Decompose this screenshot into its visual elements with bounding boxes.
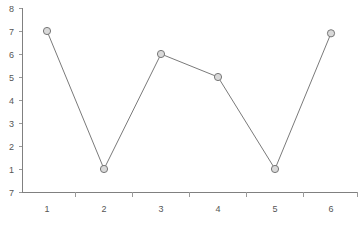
y-axis-group: 8 7 6 5 4 3 2 1 7 [9,4,23,198]
x-axis-tick-label: 4 [215,204,220,214]
x-axis-tick-label: 2 [101,204,106,214]
data-series-group [43,27,334,172]
y-axis-tick-label: 4 [9,96,14,106]
y-axis-tick-label: 7 [9,27,14,37]
data-point-marker [157,50,164,57]
data-point-marker [271,165,278,172]
y-axis-tick-label: 7 [9,188,14,198]
x-axis-tick-label: 6 [328,204,333,214]
y-tick-marks [19,9,22,193]
data-point-marker [100,165,107,172]
x-axis-tick-label: 5 [272,204,277,214]
series-markers [43,27,334,172]
chart-canvas: 8 7 6 5 4 3 2 1 7 1 2 3 4 5 6 [0,0,363,226]
line-chart: 8 7 6 5 4 3 2 1 7 1 2 3 4 5 6 [0,0,363,226]
y-axis-tick-label: 2 [9,142,14,152]
x-axis-tick-label: 1 [44,204,49,214]
x-axis-tick-label: 3 [158,204,163,214]
y-axis-tick-label: 5 [9,73,14,83]
data-point-marker [327,30,334,37]
data-point-marker [214,73,221,80]
y-axis-tick-label: 3 [9,119,14,129]
x-axis-group: 1 2 3 4 5 6 [23,192,359,214]
series-line [47,31,331,169]
data-point-marker [43,27,50,34]
y-axis-tick-label: 8 [9,4,14,14]
y-axis-tick-label: 1 [9,165,14,175]
y-axis-tick-label: 6 [9,50,14,60]
